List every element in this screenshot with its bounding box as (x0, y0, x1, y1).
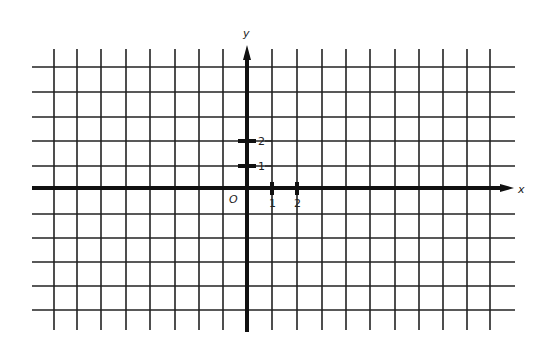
y-tick-label: 1 (258, 160, 265, 173)
y-tick (238, 139, 256, 143)
x-axis-label: x (517, 183, 525, 196)
y-axis-arrow-icon (243, 45, 251, 60)
tick-labels: 1212 (258, 135, 301, 210)
x-tick-label: 2 (294, 197, 301, 210)
x-axis-arrow-icon (500, 184, 514, 192)
origin-label: O (229, 193, 238, 206)
x-tick (270, 182, 274, 195)
y-axis-label: y (242, 27, 250, 40)
coordinate-plane: x y O 1212 (0, 0, 548, 349)
y-tick-label: 2 (258, 135, 265, 148)
y-tick (238, 164, 256, 168)
x-tick (295, 182, 299, 195)
x-tick-label: 1 (269, 197, 276, 210)
